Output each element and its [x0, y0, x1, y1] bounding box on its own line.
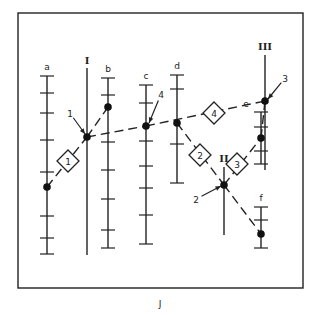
scale-d-label: d: [174, 61, 180, 71]
step-number: 2: [197, 151, 203, 161]
node-e: [257, 134, 265, 142]
pointer-label-2: 2: [193, 195, 199, 205]
figure-caption: J: [158, 299, 162, 309]
pointer-label-1: 1: [67, 109, 73, 119]
axis-label: III: [258, 41, 272, 52]
node-b: [104, 103, 112, 111]
scale-a-label: a: [44, 62, 50, 72]
axis-label: II: [219, 153, 229, 164]
node-a: [43, 183, 51, 191]
pointer-label-3: 3: [282, 74, 288, 84]
step-number: 1: [65, 157, 71, 167]
nomogram-figure: 1234 1423 abcdefIIIIII J: [0, 0, 321, 315]
scale-f-label: f: [259, 193, 263, 203]
node-c: [142, 122, 150, 130]
index-line-4: [87, 126, 146, 137]
scale-b-label: b: [105, 64, 111, 74]
node-I: [83, 133, 91, 141]
labels-group: abcdefIIIIII: [44, 41, 272, 203]
node-f: [257, 230, 265, 238]
node-d: [173, 119, 181, 127]
node-II: [220, 181, 228, 189]
step-number: 4: [211, 109, 217, 119]
axis-label: I: [85, 55, 90, 66]
step-number: 3: [234, 160, 240, 170]
index-line-2: [224, 185, 261, 234]
arrowhead-icon: [149, 117, 153, 123]
pointer-label-4: 4: [158, 90, 164, 100]
index-line-1: [87, 107, 108, 137]
node-III: [261, 97, 269, 105]
arrowhead-icon: [80, 128, 85, 134]
scale-c-label: c: [144, 71, 149, 81]
scale-e-label: e: [243, 99, 249, 109]
